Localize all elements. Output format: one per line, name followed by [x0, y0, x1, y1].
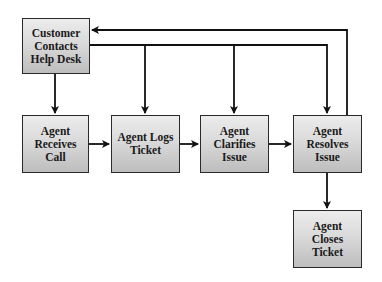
node-label: Agent Resolves Issue — [296, 125, 359, 164]
arrow-customer-to-resolves — [90, 45, 327, 113]
node-label: Agent Clarifies Issue — [203, 125, 266, 164]
node-agent-resolves-issue: Agent Resolves Issue — [293, 115, 362, 173]
node-label: Customer Contacts Help Desk — [25, 27, 87, 66]
help-desk-flowchart: Customer Contacts Help Desk Agent Receiv… — [0, 0, 382, 282]
node-label: Agent Logs Ticket — [114, 131, 177, 157]
node-customer-contacts-help-desk: Customer Contacts Help Desk — [22, 18, 90, 74]
node-label: Agent Receives Call — [25, 125, 86, 164]
node-label: Agent Closes Ticket — [296, 220, 359, 259]
node-agent-clarifies-issue: Agent Clarifies Issue — [200, 115, 269, 173]
node-agent-receives-call: Agent Receives Call — [22, 115, 89, 173]
arrow-resolves-to-customer — [92, 30, 347, 115]
node-agent-closes-ticket: Agent Closes Ticket — [293, 210, 362, 268]
node-agent-logs-ticket: Agent Logs Ticket — [111, 115, 180, 173]
